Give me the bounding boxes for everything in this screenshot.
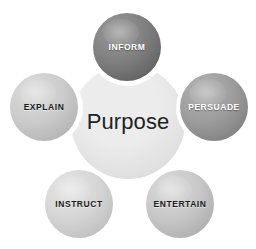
node-label-inform: INFORM bbox=[109, 43, 146, 52]
node-label-persuade: PERSUADE bbox=[188, 103, 240, 112]
node-label-instruct: INSTRUCT bbox=[55, 200, 102, 209]
node-instruct[interactable]: INSTRUCT bbox=[45, 170, 113, 238]
node-persuade[interactable]: PERSUADE bbox=[180, 73, 248, 141]
center-hub-label: Purpose bbox=[87, 111, 170, 133]
node-explain[interactable]: EXPLAIN bbox=[10, 73, 78, 141]
purpose-diagram: Purpose INFORM PERSUADE ENTERTAIN INSTRU… bbox=[0, 0, 256, 249]
node-inform[interactable]: INFORM bbox=[93, 13, 161, 81]
node-label-explain: EXPLAIN bbox=[24, 103, 65, 112]
node-entertain[interactable]: ENTERTAIN bbox=[146, 170, 214, 238]
node-label-entertain: ENTERTAIN bbox=[154, 200, 207, 209]
